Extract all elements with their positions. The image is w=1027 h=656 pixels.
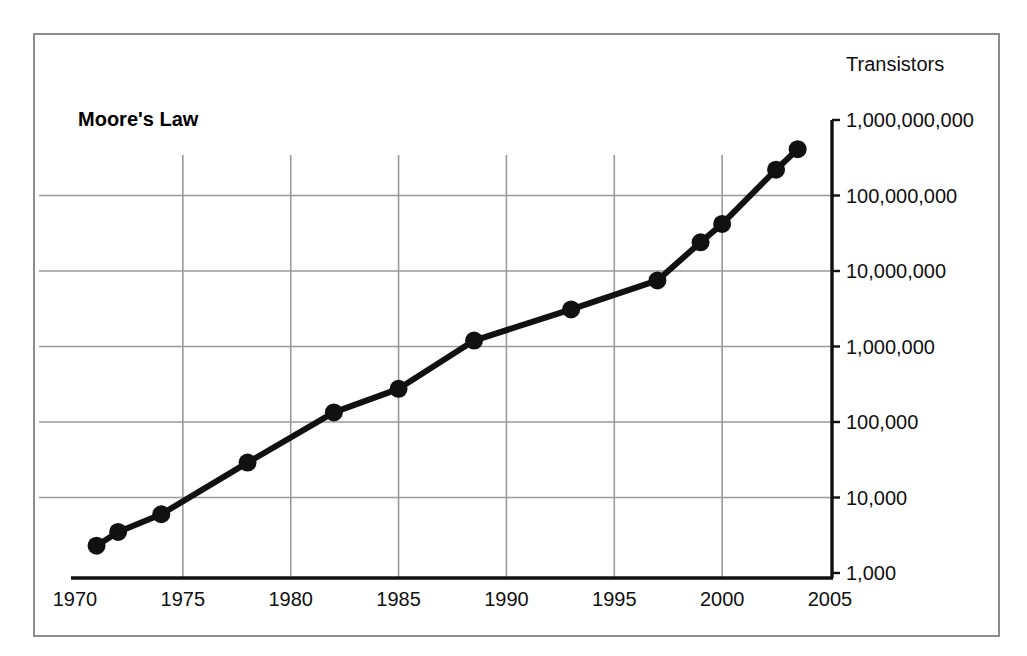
y-axis-tick-label: 1,000,000: [846, 335, 935, 358]
x-axis-tick-label: 1970: [53, 588, 98, 611]
data-point-marker: 1988.5: 1200000: [465, 332, 483, 350]
x-axis-tick-label: 1985: [376, 588, 421, 611]
data-point-marker: 1982: 134000: [325, 403, 343, 421]
data-point-marker: 1993: 3100000: [562, 300, 580, 318]
data-point-marker: 2003.5: 410000000: [789, 140, 807, 158]
data-point-marker: 1978: 29000: [239, 454, 257, 472]
x-axis-tick-label: 1995: [592, 588, 637, 611]
data-point-marker: 1972: 3500: [109, 523, 127, 541]
y-axis-tick-label: 10,000,000: [846, 260, 946, 283]
data-point-marker: 1985: 275000: [390, 380, 408, 398]
y-axis-tick-label: 1,000,000,000: [846, 109, 974, 132]
data-point-marker: 1971: 2300: [88, 537, 106, 555]
data-series-layer: 1971: 23001972: 35001974: 60001978: 2900…: [88, 140, 807, 554]
data-point-marker: 1974: 6000: [152, 505, 170, 523]
line-chart-plot: 1971: 23001972: 35001974: 60001978: 2900…: [0, 0, 1027, 656]
y-axis-tick-label: 100,000,000: [846, 184, 957, 207]
series-line-transistors: [97, 149, 798, 545]
y-axis-tick-label: 10,000: [846, 486, 907, 509]
data-point-marker: 1999: 24000000: [692, 233, 710, 251]
data-point-marker: 1997: 7500000: [648, 271, 666, 289]
x-axis-tick-label: 1990: [484, 588, 529, 611]
data-point-marker: 2002.5: 220000000: [767, 161, 785, 179]
x-axis-tick-label: 1975: [161, 588, 206, 611]
x-axis-tick-label: 1980: [268, 588, 313, 611]
y-axis-tick-label: 100,000: [846, 411, 918, 434]
y-axis-tick-label: 1,000: [846, 562, 896, 585]
data-point-marker: 2000: 42000000: [713, 215, 731, 233]
x-axis-tick-label: 2000: [700, 588, 745, 611]
x-axis-tick-label: 2005: [808, 588, 853, 611]
